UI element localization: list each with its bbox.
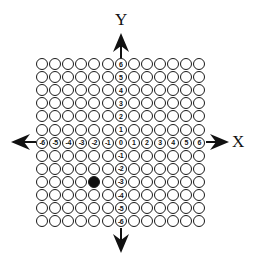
grid-circle <box>193 176 205 188</box>
grid-circle <box>193 163 205 175</box>
grid-circle <box>128 176 140 188</box>
grid-circle <box>49 215 61 227</box>
grid-circle <box>141 202 153 214</box>
grid-circle <box>154 163 166 175</box>
grid-circle <box>49 202 61 214</box>
y-axis-tick: 1 <box>115 124 127 136</box>
grid-circle <box>154 58 166 70</box>
grid-circle <box>167 163 179 175</box>
grid-circle <box>141 189 153 201</box>
grid-circle <box>154 71 166 83</box>
grid-circle <box>154 150 166 162</box>
grid-circle <box>193 124 205 136</box>
x-axis-label: X <box>232 133 244 150</box>
y-axis-tick: -4 <box>115 189 127 201</box>
x-axis-tick: 2 <box>141 137 153 149</box>
grid-circle <box>180 215 192 227</box>
grid-circle <box>180 97 192 109</box>
y-axis-label: Y <box>115 11 127 28</box>
grid-circle <box>75 110 87 122</box>
grid-circle <box>102 110 114 122</box>
grid-circle <box>102 189 114 201</box>
grid-circle <box>167 189 179 201</box>
grid-circle <box>36 84 48 96</box>
grid-circle <box>88 215 100 227</box>
grid-circle <box>36 163 48 175</box>
grid-circle <box>193 150 205 162</box>
grid-circle <box>88 163 100 175</box>
grid-circle <box>88 150 100 162</box>
coordinate-grid-diagram: Y X 654321-6-5-4-3-2-10123456-1-2-3-4-5-… <box>0 0 254 260</box>
grid-circle <box>180 202 192 214</box>
grid-circle <box>75 97 87 109</box>
grid-circle <box>180 58 192 70</box>
grid-circle <box>102 124 114 136</box>
grid-circle <box>62 202 74 214</box>
grid-circle <box>128 150 140 162</box>
x-axis-tick: 5 <box>180 137 192 149</box>
grid-circle <box>62 124 74 136</box>
grid-circle <box>167 84 179 96</box>
grid-circle <box>128 189 140 201</box>
grid-circle <box>36 124 48 136</box>
grid-circle <box>36 71 48 83</box>
grid-circle <box>167 110 179 122</box>
grid-circle <box>180 84 192 96</box>
x-axis-tick: 4 <box>167 137 179 149</box>
grid-circle <box>102 163 114 175</box>
grid-circle <box>154 110 166 122</box>
grid-circle <box>167 58 179 70</box>
grid-circle <box>102 84 114 96</box>
grid-circle <box>49 163 61 175</box>
grid-circle <box>141 110 153 122</box>
grid-circle <box>36 110 48 122</box>
grid-circle <box>141 71 153 83</box>
grid-circle <box>167 176 179 188</box>
grid-circle <box>36 97 48 109</box>
grid-circle <box>88 84 100 96</box>
grid-circle <box>180 150 192 162</box>
grid-circle <box>193 202 205 214</box>
grid-circle <box>180 189 192 201</box>
grid-circle <box>141 176 153 188</box>
grid-circle <box>75 189 87 201</box>
y-axis-tick: -5 <box>115 202 127 214</box>
grid-circle <box>128 110 140 122</box>
grid-circle <box>193 189 205 201</box>
y-axis-tick: 5 <box>115 71 127 83</box>
grid-circle <box>167 202 179 214</box>
grid-circle <box>49 97 61 109</box>
circle-grid: 654321-6-5-4-3-2-10123456-1-2-3-4-5-6 <box>36 58 206 228</box>
grid-circle <box>62 84 74 96</box>
grid-circle <box>36 202 48 214</box>
grid-circle <box>49 150 61 162</box>
grid-circle <box>75 215 87 227</box>
y-axis-tick: 4 <box>115 84 127 96</box>
grid-circle <box>180 71 192 83</box>
grid-circle <box>141 124 153 136</box>
grid-circle <box>88 71 100 83</box>
grid-circle <box>102 97 114 109</box>
grid-circle <box>62 189 74 201</box>
grid-circle <box>49 176 61 188</box>
grid-circle <box>102 150 114 162</box>
grid-circle <box>128 71 140 83</box>
grid-circle <box>75 124 87 136</box>
grid-circle <box>88 110 100 122</box>
grid-circle <box>88 189 100 201</box>
x-axis-tick: 1 <box>128 137 140 149</box>
grid-circle <box>167 150 179 162</box>
grid-circle <box>128 84 140 96</box>
grid-circle <box>75 71 87 83</box>
grid-circle <box>154 97 166 109</box>
grid-circle <box>167 71 179 83</box>
x-axis-tick: -2 <box>88 137 100 149</box>
grid-circle <box>75 58 87 70</box>
grid-circle <box>154 189 166 201</box>
y-axis-tick: 2 <box>115 110 127 122</box>
grid-circle <box>62 58 74 70</box>
grid-circle <box>102 202 114 214</box>
grid-circle <box>193 58 205 70</box>
grid-circle <box>180 110 192 122</box>
grid-circle <box>128 215 140 227</box>
